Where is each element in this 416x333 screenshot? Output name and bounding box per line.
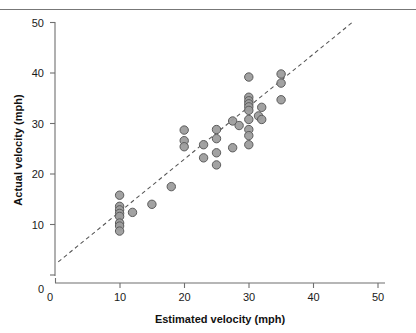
data-point bbox=[148, 200, 156, 208]
data-point bbox=[167, 182, 175, 190]
data-point bbox=[277, 79, 285, 87]
data-point bbox=[235, 121, 243, 129]
x-tick-label-0: 0 bbox=[47, 291, 53, 303]
data-point bbox=[228, 144, 236, 152]
data-point bbox=[212, 134, 220, 142]
data-point bbox=[277, 70, 285, 78]
x-tick-label-40: 40 bbox=[307, 291, 319, 303]
data-point-group bbox=[115, 70, 285, 235]
data-point bbox=[258, 115, 266, 123]
data-point bbox=[115, 227, 123, 235]
y-axis-ticks bbox=[50, 23, 55, 276]
x-tick-label-10: 10 bbox=[114, 291, 126, 303]
data-point bbox=[245, 106, 253, 114]
data-point bbox=[212, 161, 220, 169]
y-axis-title: Actual velocity (mph) bbox=[12, 94, 24, 206]
data-point bbox=[212, 149, 220, 157]
data-point bbox=[128, 208, 136, 216]
x-axis-title: Estimated velocity (mph) bbox=[155, 313, 286, 325]
data-point bbox=[212, 125, 220, 133]
x-axis-tick-labels: 0 10 20 30 40 50 bbox=[47, 291, 384, 303]
x-tick-label-20: 20 bbox=[178, 291, 190, 303]
y-tick-label-0: 0 bbox=[38, 283, 44, 295]
data-point bbox=[245, 131, 253, 139]
scatter-plot-figure: 50 40 30 20 10 0 Actual velocity (mph) 0 bbox=[0, 0, 416, 333]
x-axis: 0 10 20 30 40 50 Estimated velocity (mph… bbox=[47, 278, 385, 325]
y-axis-tick-labels: 50 40 30 20 10 0 bbox=[32, 17, 44, 296]
y-tick-label-30: 30 bbox=[32, 118, 44, 130]
data-point bbox=[180, 126, 188, 134]
data-point bbox=[199, 154, 207, 162]
plot-canvas: 50 40 30 20 10 0 Actual velocity (mph) 0 bbox=[0, 0, 416, 333]
y-axis: 50 40 30 20 10 0 Actual velocity (mph) bbox=[12, 17, 55, 296]
data-point bbox=[258, 103, 266, 111]
y-tick-label-50: 50 bbox=[32, 17, 44, 29]
x-tick-label-50: 50 bbox=[372, 291, 384, 303]
data-point bbox=[245, 73, 253, 81]
data-point bbox=[277, 96, 285, 104]
data-point bbox=[199, 141, 207, 149]
data-point bbox=[245, 115, 253, 123]
data-point bbox=[180, 143, 188, 151]
y-tick-label-20: 20 bbox=[32, 168, 44, 180]
y-tick-label-40: 40 bbox=[32, 67, 44, 79]
data-point bbox=[115, 191, 123, 199]
y-tick-label-10: 10 bbox=[32, 219, 44, 231]
data-point bbox=[245, 141, 253, 149]
x-tick-label-30: 30 bbox=[243, 291, 255, 303]
